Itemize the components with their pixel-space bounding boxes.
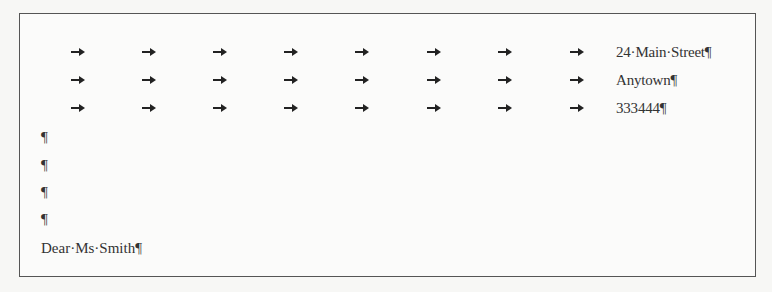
empty-paragraph[interactable]: ¶ [20,209,755,229]
tab-arrow-icon [355,70,369,90]
tab-arrow-icon [71,70,85,90]
tab-arrow-icon [284,42,298,62]
tab-arrow-icon [71,98,85,118]
address-line-3[interactable]: 333444¶ [20,98,755,118]
paragraph-mark-icon: ¶ [41,155,48,175]
tab-arrow-icon [284,70,298,90]
tab-arrow-icon [427,98,441,118]
empty-paragraph[interactable]: ¶ [20,127,755,147]
tab-arrow-icon [355,42,369,62]
tab-arrow-icon [142,98,156,118]
tab-arrow-icon [213,98,227,118]
empty-paragraph[interactable]: ¶ [20,182,755,202]
address-street-text: 24·Main·Street¶ [616,42,711,62]
paragraph-mark-icon: ¶ [41,127,48,147]
address-postcode-text: 333444¶ [616,98,666,118]
tab-arrow-icon [498,42,512,62]
address-town-text: Anytown¶ [616,70,677,90]
address-line-2[interactable]: Anytown¶ [20,70,755,90]
tab-arrow-icon [498,70,512,90]
tab-arrow-icon [71,42,85,62]
document-page[interactable]: 24·Main·Street¶ Anytown¶ 333444¶ ¶ ¶ ¶ ¶ [19,13,756,277]
empty-paragraph[interactable]: ¶ [20,155,755,175]
paragraph-mark-icon: ¶ [41,209,48,229]
tab-arrow-icon [284,98,298,118]
tab-arrow-icon [427,70,441,90]
paragraph-mark-icon: ¶ [41,182,48,202]
tab-arrow-icon [570,70,584,90]
tab-arrow-icon [427,42,441,62]
tab-arrow-icon [355,98,369,118]
tab-arrow-icon [570,98,584,118]
tab-arrow-icon [498,98,512,118]
tab-arrow-icon [142,70,156,90]
tab-arrow-icon [570,42,584,62]
address-line-1[interactable]: 24·Main·Street¶ [20,42,755,62]
tab-arrow-icon [213,70,227,90]
salutation-line[interactable]: Dear·Ms·Smith¶ [20,238,755,258]
tab-arrow-icon [213,42,227,62]
tab-arrow-icon [142,42,156,62]
salutation-text: Dear·Ms·Smith¶ [41,238,142,258]
